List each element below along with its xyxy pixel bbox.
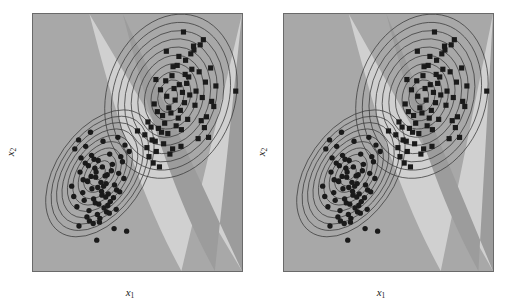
left-x-axis-label: x1 bbox=[0, 286, 260, 300]
figure-canvas: x1 x2 x1 x2 bbox=[0, 0, 520, 304]
right-x-axis-label: x1 bbox=[251, 286, 511, 300]
right-plot-svg bbox=[284, 14, 493, 271]
right-panel: x1 x2 bbox=[251, 0, 511, 304]
left-plot-svg bbox=[33, 14, 242, 271]
left-panel: x1 x2 bbox=[0, 0, 260, 304]
left-plot-area bbox=[32, 13, 243, 272]
left-y-axis-label: x2 bbox=[4, 137, 18, 167]
right-plot-area bbox=[283, 13, 494, 272]
right-y-axis-label: x2 bbox=[255, 137, 269, 167]
